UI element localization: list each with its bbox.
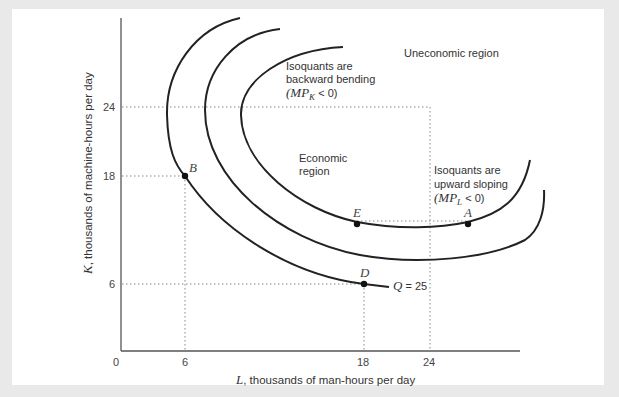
backward-bending-label-1: Isoquants are xyxy=(286,60,353,72)
x-tick-0: 0 xyxy=(113,356,119,368)
x-tick-6: 6 xyxy=(182,356,188,368)
upward-sloping-label-1: Isoquants are xyxy=(434,164,501,176)
backward-bending-label-2: backward bending xyxy=(286,73,375,85)
upward-sloping-label-2: upward sloping xyxy=(434,178,508,190)
point-e-label: E xyxy=(352,205,361,220)
point-d-label: D xyxy=(359,265,370,280)
point-b-label: B xyxy=(189,160,197,175)
isoquant-q25 xyxy=(167,18,389,287)
economic-region-label-1: Economic xyxy=(299,152,348,164)
y-tick-18: 18 xyxy=(103,170,115,182)
point-a-label: A xyxy=(463,205,472,220)
upward-sloping-condition: (MPL < 0) xyxy=(434,190,484,207)
y-tick-24: 24 xyxy=(103,101,115,113)
economic-region-label-2: region xyxy=(299,165,330,177)
backward-bending-condition: (MPK < 0) xyxy=(286,85,337,102)
y-axis-title: K, thousands of machine-hours per day xyxy=(80,72,95,275)
y-tick-6: 6 xyxy=(109,278,115,290)
x-tick-24: 24 xyxy=(423,356,435,368)
marked-points xyxy=(182,173,471,287)
point-d xyxy=(361,281,367,287)
q25-label: Q = 25 xyxy=(393,278,427,293)
point-a xyxy=(465,221,471,227)
uneconomic-region-label: Uneconomic region xyxy=(404,47,499,59)
x-tick-18: 18 xyxy=(357,356,369,368)
isoquant-inner xyxy=(241,47,530,227)
reference-lines xyxy=(122,107,468,350)
point-e xyxy=(354,221,360,227)
point-b xyxy=(182,173,188,179)
x-axis-title: L, thousands of man-hours per day xyxy=(235,372,415,387)
isoquant-chart: B D E A Q = 25 0 6 18 24 24 18 6 L, thou… xyxy=(0,0,619,397)
